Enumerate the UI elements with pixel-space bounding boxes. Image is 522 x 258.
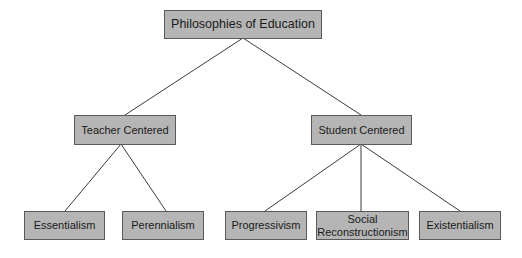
edge-teacher-essentialism [65, 144, 121, 211]
node-philosophies-of-education: Philosophies of Education [164, 10, 322, 39]
edge-teacher-perennialism [121, 144, 166, 211]
node-progressivism: Progressivism [225, 211, 307, 240]
node-existentialism: Existentialism [419, 211, 501, 240]
edge-root-teacher [125, 38, 243, 115]
node-label: Progressivism [231, 219, 300, 232]
node-label: Student Centered [318, 124, 404, 137]
node-label-line2: Reconstructionism [317, 226, 407, 239]
node-student-centered: Student Centered [311, 115, 412, 145]
node-label: Existentialism [426, 219, 493, 232]
node-label: Teacher Centered [81, 124, 168, 137]
edge-root-student [243, 38, 361, 115]
node-label-line1: Social [348, 213, 378, 226]
node-label: Philosophies of Education [171, 18, 315, 31]
node-essentialism: Essentialism [24, 211, 105, 240]
node-label: Perennialism [131, 219, 195, 232]
node-label: Essentialism [34, 219, 96, 232]
node-teacher-centered: Teacher Centered [74, 115, 176, 145]
edge-student-existentialism [361, 144, 460, 211]
node-social-reconstructionism: Social Reconstructionism [316, 211, 409, 240]
node-perennialism: Perennialism [122, 211, 204, 240]
edge-student-progressivism [265, 144, 361, 211]
